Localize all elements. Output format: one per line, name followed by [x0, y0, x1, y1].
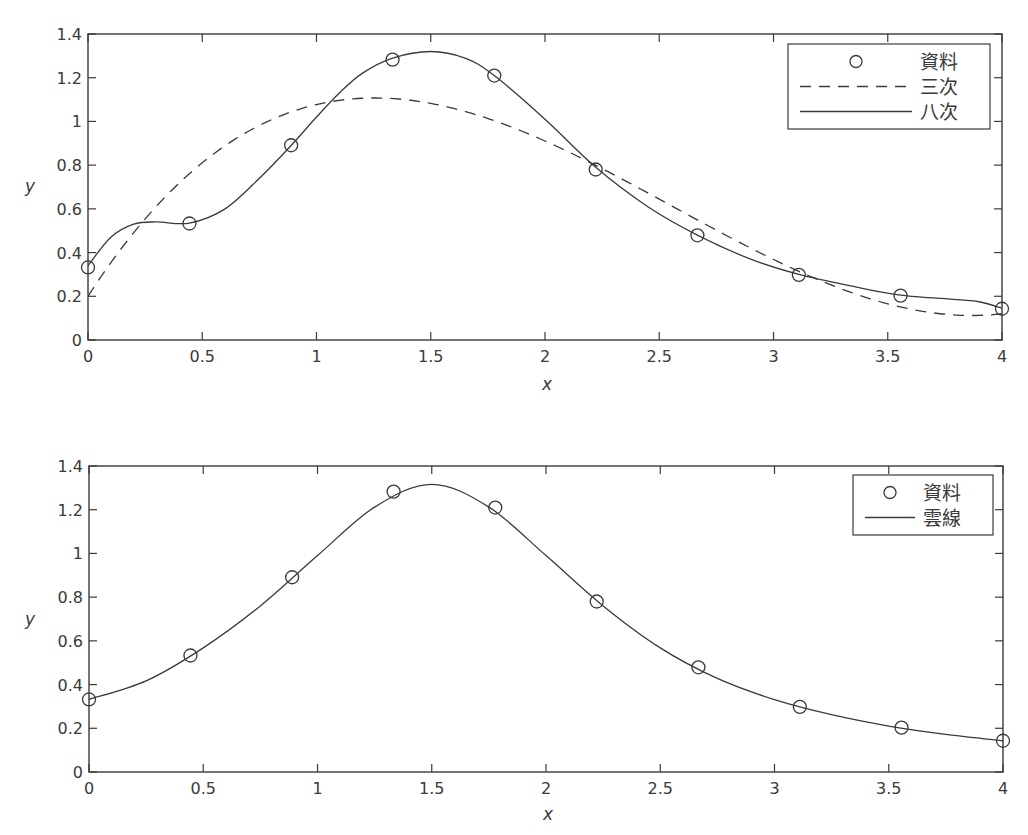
x-tick-label: 3.5 [876, 779, 901, 798]
x-tick-label: 1 [311, 347, 321, 366]
data-point-marker [286, 571, 299, 584]
y-axis-label: y [24, 609, 36, 629]
y-tick-label: 0.2 [57, 287, 82, 306]
x-tick-label: 0.5 [190, 347, 215, 366]
y-tick-label: 0.2 [58, 719, 83, 738]
x-tick-label: 0 [84, 779, 94, 798]
y-tick-label: 0.4 [58, 676, 83, 695]
x-tick-label: 3 [768, 347, 778, 366]
legend-label: 三次 [920, 76, 958, 98]
x-tick-label: 3 [769, 779, 779, 798]
legend-box [788, 44, 990, 129]
x-tick-label: 1 [312, 779, 322, 798]
x-tick-label: 1.5 [418, 347, 443, 366]
x-tick-label: 0 [83, 347, 93, 366]
y-axis-label: y [24, 176, 36, 196]
y-tick-label: 1.2 [57, 69, 82, 88]
cubic-fit-curve [88, 98, 1002, 316]
x-axis-label: x [542, 804, 554, 824]
y-tick-label: 1.2 [58, 501, 83, 520]
x-tick-label: 2.5 [648, 779, 673, 798]
x-tick-label: 2.5 [647, 347, 672, 366]
legend-label: 八次 [920, 101, 958, 123]
y-tick-label: 0 [72, 331, 82, 350]
y-tick-label: 0.6 [58, 632, 83, 651]
y-tick-label: 0.6 [57, 200, 82, 219]
x-tick-label: 4 [997, 347, 1007, 366]
y-tick-label: 0.8 [57, 156, 82, 175]
top-plot: 00.511.522.533.5400.20.40.60.811.21.4xy資… [24, 25, 1009, 394]
figure: 00.511.522.533.5400.20.40.60.811.21.4xy資… [0, 0, 1028, 835]
legend-label: 雲線 [923, 507, 961, 529]
x-tick-label: 2 [540, 347, 550, 366]
y-tick-label: 1 [72, 112, 82, 131]
data-point-marker [590, 595, 603, 608]
x-tick-label: 0.5 [191, 779, 216, 798]
y-tick-label: 1.4 [58, 457, 83, 476]
x-tick-label: 2 [541, 779, 551, 798]
x-tick-label: 1.5 [419, 779, 444, 798]
legend-label: 資料 [923, 482, 961, 504]
y-tick-label: 1.4 [57, 25, 82, 44]
y-tick-label: 1 [73, 544, 83, 563]
y-tick-label: 0 [73, 763, 83, 782]
bottom-plot: 00.511.522.533.5400.20.40.60.811.21.4xy資… [24, 457, 1010, 824]
y-tick-label: 0.4 [57, 244, 82, 263]
x-axis-label: x [541, 374, 553, 394]
legend: 資料三次八次 [788, 44, 990, 129]
legend: 資料雲線 [853, 475, 993, 535]
x-tick-label: 3.5 [875, 347, 900, 366]
y-tick-label: 0.8 [58, 588, 83, 607]
legend-label: 資料 [920, 51, 958, 73]
x-tick-label: 4 [998, 779, 1008, 798]
